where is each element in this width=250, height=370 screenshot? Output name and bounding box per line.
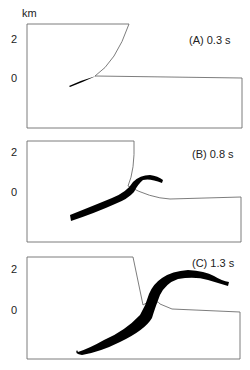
- panel-c: [27, 257, 240, 359]
- flow-evolution-figure: [0, 0, 250, 370]
- panel-c-flow-mass: [76, 270, 229, 355]
- panel-b-tick-0: 0: [11, 187, 17, 198]
- panel-a-tick-2: 2: [11, 34, 17, 45]
- panel-c-title: (C) 1.3 s: [192, 258, 234, 269]
- panel-c-tick-0: 0: [11, 305, 17, 316]
- panel-a-title: (A) 0.3 s: [189, 35, 231, 46]
- unit-label: km: [22, 8, 37, 19]
- panel-a-flow-mass: [69, 76, 96, 87]
- panel-c-tick-2: 2: [11, 264, 17, 275]
- panel-a-tick-0: 0: [11, 73, 17, 84]
- panel-b-title: (B) 0.8 s: [192, 149, 234, 160]
- panel-b-tick-2: 2: [11, 147, 17, 158]
- panel-c-topography-outline: [27, 257, 240, 359]
- panel-b-flow-mass: [70, 175, 163, 221]
